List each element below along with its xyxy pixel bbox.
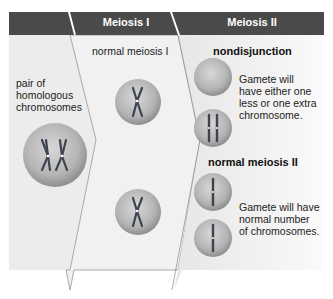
gamete-normal-1 (194, 173, 232, 211)
label-line: homologous (16, 89, 82, 101)
header-meiosis-1: Meiosis I (76, 16, 176, 28)
label-line: chromosome. (239, 109, 317, 121)
label-normal-desc: Gamete will have normal number of chromo… (239, 201, 320, 237)
label-homologous-pair: pair of homologous chromosomes (16, 77, 82, 113)
meiosis1-cell-bottom (115, 189, 161, 235)
label-line: pair of (16, 77, 82, 89)
header-bar-start (9, 12, 74, 35)
label-line: chromosomes (16, 101, 82, 113)
label-line: have either one (239, 85, 317, 97)
gamete-normal-2 (194, 219, 232, 257)
label-line: of chromosomes. (239, 225, 320, 237)
header-meiosis-2: Meiosis II (180, 16, 324, 28)
gamete-empty (194, 58, 232, 96)
label-nondisjunction-desc: Gamete will have either one less or one … (239, 73, 317, 121)
gamete-extra (194, 109, 232, 147)
label-line: less or one extra (239, 97, 317, 109)
label-line: normal number (239, 213, 320, 225)
parent-cell (23, 123, 87, 187)
label-nondisjunction: nondisjunction (213, 45, 292, 57)
label-line: Gamete will have (239, 201, 320, 213)
label-normal-meiosis-2: normal meiosis II (208, 156, 298, 168)
label-line: Gamete will (239, 73, 317, 85)
meiosis1-cell-top (115, 79, 161, 125)
label-normal-meiosis-1: normal meiosis I (92, 45, 168, 57)
